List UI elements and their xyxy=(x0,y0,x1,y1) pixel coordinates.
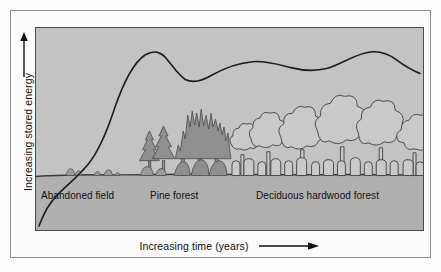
x-axis: Increasing time (years) xyxy=(35,234,424,258)
stage-label-abandoned-field: Abandoned field xyxy=(41,190,114,201)
stage-label-deciduous-hardwood-forest: Deciduous hardwood forest xyxy=(256,190,379,201)
stage-label-pine-forest: Pine forest xyxy=(150,190,198,201)
succession-figure: Increasing stored energy xyxy=(0,0,441,272)
pine-forest xyxy=(139,109,231,175)
deciduous-hardwood-forest xyxy=(230,95,423,175)
x-axis-label: Increasing time (years) xyxy=(139,240,248,252)
understory-shrubs xyxy=(232,158,423,176)
y-axis: Increasing stored energy xyxy=(12,30,36,230)
arrow-right-icon xyxy=(258,240,320,252)
ground xyxy=(36,174,423,230)
y-axis-label: Increasing stored energy xyxy=(22,58,34,206)
plot-area: Abandoned field Pine forest Deciduous ha… xyxy=(35,27,424,231)
